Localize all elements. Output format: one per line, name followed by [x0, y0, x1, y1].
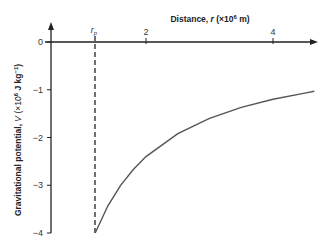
y-axis-label: Gravitational potential, V (×106 J kg−1) [13, 64, 23, 216]
y-tick-label: 0 [38, 37, 43, 47]
y-tick-label: −2 [33, 133, 43, 143]
x-axis-arrow-icon [310, 39, 318, 45]
y-tick-label: −3 [33, 180, 43, 190]
x-tick-label: 4 [270, 27, 275, 37]
y-tick-label: −4 [33, 228, 43, 238]
x-tick-label: 2 [143, 27, 148, 37]
y-axis-arrow-icon [48, 22, 54, 30]
x-axis-label: Distance, r (×106 m) [170, 14, 249, 24]
ticks: 240−1−2−3−4 [33, 27, 276, 238]
chart: Distance, r (×106 m) Gravitational poten… [0, 0, 328, 245]
potential-curve [95, 91, 314, 233]
rp-label: rp [91, 25, 98, 36]
y-tick-label: −1 [33, 85, 43, 95]
